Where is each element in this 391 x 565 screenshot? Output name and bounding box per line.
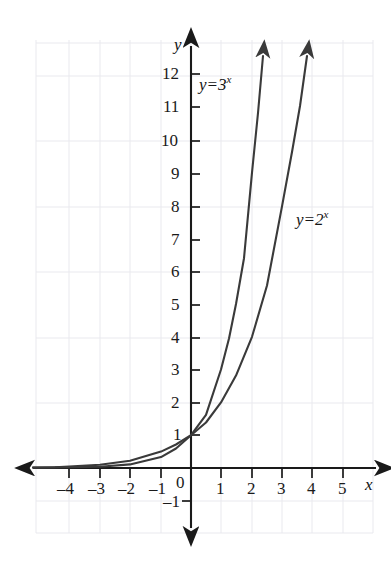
y-tick-label-2: 2	[171, 394, 180, 411]
y-tick-label-5: 5	[171, 296, 180, 313]
x-tick-label-0: 0	[176, 474, 185, 491]
y-tick-label-8: 8	[171, 198, 180, 215]
y-tick-label-7: 7	[171, 231, 180, 248]
x-tick-label-5: 5	[338, 480, 347, 497]
x-tick-label-neg3: –3	[88, 480, 105, 497]
x-tick-label-neg1: –1	[149, 480, 166, 497]
x-tick-label-1: 1	[216, 480, 225, 497]
y-tick-label-4: 4	[171, 329, 180, 346]
function-curves	[33, 56, 307, 468]
x-axis-label: x	[365, 476, 373, 493]
y-tick-label-10: 10	[161, 132, 178, 149]
axes	[33, 46, 376, 528]
y-axis-label: y	[174, 36, 182, 53]
y-tick-label-3: 3	[171, 361, 180, 378]
y-tick-label-1: 1	[173, 426, 182, 443]
y-tick-label-6: 6	[171, 263, 180, 280]
exponential-functions-graph: y x 12 11 10 9 8 7 6 5 4 3 2 1 –1 –4 –3 …	[0, 0, 391, 565]
y-tick-label-9: 9	[171, 165, 180, 182]
x-tick-label-2: 2	[247, 480, 256, 497]
curve-y-equals-3-to-the-x	[33, 56, 263, 468]
x-tick-label-4: 4	[307, 480, 316, 497]
y-tick-label-12: 12	[162, 65, 179, 82]
y-tick-label-11: 11	[163, 98, 179, 115]
curve-y-equals-2-to-the-x	[33, 56, 307, 468]
curve-label-3-to-the-x: y=3x	[199, 76, 231, 93]
gridlines	[36, 40, 373, 533]
x-tick-label-neg4: –4	[57, 480, 74, 497]
x-tick-label-neg2: –2	[118, 480, 135, 497]
curve-label-2-to-the-x: y=2x	[296, 211, 328, 228]
x-axis-ticks	[69, 468, 343, 478]
x-tick-label-3: 3	[277, 480, 286, 497]
